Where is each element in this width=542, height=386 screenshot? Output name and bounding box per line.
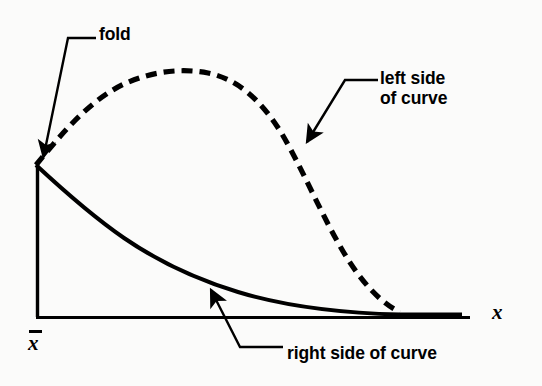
x-bar-origin-label: x [28,330,42,352]
x-bar-character: x [28,334,42,352]
leader-line-fold [44,38,97,157]
curve-left-side-dashed [36,71,400,312]
leader-line-left-side [307,80,378,142]
x-axis-label: x [492,302,503,322]
figure-svg [0,0,542,386]
annotation-label-left-side-line1: left side [380,68,445,88]
annotation-label-right-side: right side of curve [287,343,437,363]
annotation-label-left-side-line2: of curve [380,88,447,108]
curve-right-side-solid [36,165,462,315]
figure-canvas: fold left side of curve right side of cu… [0,0,542,386]
annotation-label-fold: fold [99,24,131,44]
